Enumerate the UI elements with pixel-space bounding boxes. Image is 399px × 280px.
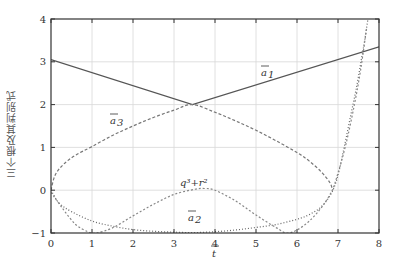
y-tick-label: 3 bbox=[40, 56, 46, 67]
svg-text:1: 1 bbox=[268, 69, 274, 80]
x-tick-label: 2 bbox=[130, 238, 136, 249]
x-tick-label: 5 bbox=[253, 238, 259, 249]
x-tick-label: 7 bbox=[335, 238, 341, 249]
x-tick-label: 0 bbox=[48, 238, 54, 249]
svg-text:t: t bbox=[212, 248, 217, 259]
x-tick-label: 3 bbox=[171, 238, 177, 249]
label-discriminant: q³+r² bbox=[180, 177, 208, 188]
y-tick-label: 1 bbox=[40, 142, 46, 153]
y-tick-label: 4 bbox=[40, 14, 46, 25]
svg-text:a: a bbox=[110, 115, 116, 126]
grid-lines bbox=[51, 19, 379, 233]
label-a2: a 2 bbox=[188, 211, 201, 225]
line-chart: 012345678−101234 t a 1 a 3 q³+r² a 2 bbox=[0, 0, 399, 280]
tick-labels: 012345678−101234 bbox=[31, 14, 382, 250]
series-line-2 bbox=[51, 19, 368, 233]
svg-text:q³+r²: q³+r² bbox=[180, 177, 208, 188]
y-tick-label: 2 bbox=[40, 99, 46, 110]
svg-text:3: 3 bbox=[117, 117, 123, 128]
svg-text:a: a bbox=[188, 212, 194, 223]
x-tick-label: 6 bbox=[294, 238, 300, 249]
svg-text:a: a bbox=[261, 67, 267, 78]
label-a1: a 1 bbox=[261, 66, 274, 80]
series-line-3 bbox=[51, 28, 367, 234]
x-tick-label: 1 bbox=[89, 238, 95, 249]
x-tick-label: 8 bbox=[376, 238, 382, 249]
svg-text:2: 2 bbox=[194, 214, 201, 225]
label-a3: a 3 bbox=[110, 114, 123, 128]
y-tick-label: 0 bbox=[40, 185, 46, 196]
y-tick-label: −1 bbox=[31, 228, 46, 239]
